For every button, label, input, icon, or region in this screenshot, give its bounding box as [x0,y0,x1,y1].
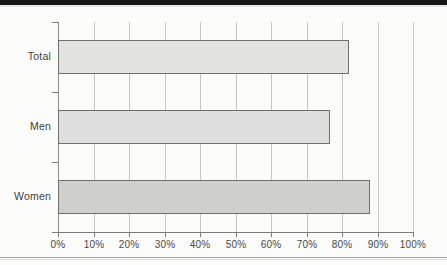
x-tick-30% [165,232,166,237]
x-tick-70% [307,232,308,237]
x-axis-label: 100% [388,239,438,250]
y-tick [52,232,58,233]
y-tick [52,92,58,93]
x-tick-0% [58,232,59,237]
bar-total[interactable] [58,40,349,74]
chart-page: 0%10%20%30%40%50%60%70%80%90%100%TotalMe… [0,0,447,265]
y-axis-label-men: Men [0,120,51,132]
x-tick-40% [200,232,201,237]
y-axis-label-women: Women [0,190,51,202]
x-tick-50% [236,232,237,237]
bottom-divider-shadow [0,259,447,260]
y-axis-label-total: Total [0,50,51,62]
y-tick [52,22,58,23]
x-tick-20% [129,232,130,237]
gridline-100% [413,22,414,232]
horizontal-bar-chart: 0%10%20%30%40%50%60%70%80%90%100%TotalMe… [0,0,447,265]
x-tick-80% [342,232,343,237]
x-tick-10% [94,232,95,237]
gridline-90% [378,22,379,232]
bar-women[interactable] [58,180,370,214]
x-tick-90% [378,232,379,237]
x-tick-100% [413,232,414,237]
bar-men[interactable] [58,110,330,144]
bottom-divider [0,257,447,258]
y-tick [52,162,58,163]
x-tick-60% [271,232,272,237]
